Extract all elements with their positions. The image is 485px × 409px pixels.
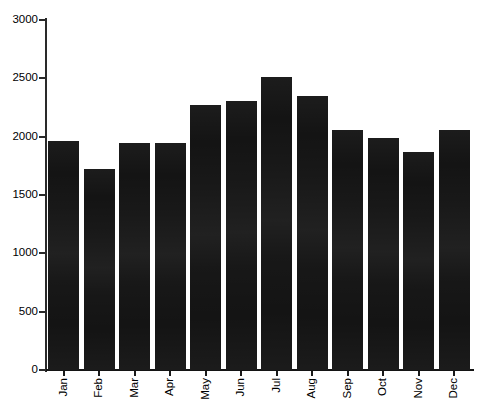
y-axis-tick-label: 1500 — [0, 189, 38, 201]
bar — [119, 143, 150, 371]
bar — [332, 130, 363, 370]
y-axis-tick-label: 2000 — [0, 131, 38, 143]
x-axis-tick-label: Oct — [378, 378, 390, 396]
x-axis-tick-label: Dec — [449, 378, 461, 398]
bar-chart: 050010001500200025003000 JanFebMarAprMay… — [0, 0, 485, 409]
x-axis-tick-label: Aug — [307, 378, 319, 398]
x-axis-tick-label: Jun — [236, 378, 248, 397]
bar — [368, 138, 399, 370]
bar — [84, 169, 115, 370]
bar — [439, 130, 470, 370]
y-axis-tick — [39, 369, 46, 371]
bar — [190, 105, 221, 370]
x-axis-tick — [240, 371, 242, 376]
y-axis-tick-label: 3000 — [0, 14, 38, 26]
y-axis-tick-label: 2500 — [0, 73, 38, 85]
x-axis-tick — [418, 371, 420, 376]
x-axis-tick — [134, 371, 136, 376]
y-axis-tick-label: 0 — [0, 364, 38, 376]
y-axis-tick-label: 500 — [0, 306, 38, 318]
y-axis-tick — [39, 19, 46, 21]
bar — [155, 143, 186, 370]
x-axis-tick-label: Jan — [58, 378, 70, 397]
x-axis-tick — [453, 371, 455, 376]
x-axis-tick — [205, 371, 207, 376]
x-axis-tick-label: May — [200, 378, 212, 400]
bar — [261, 77, 292, 370]
x-axis-tick-label: Sep — [342, 378, 354, 398]
x-axis-tick-label: Feb — [94, 378, 106, 398]
x-axis-tick-label: Nov — [413, 378, 425, 398]
x-axis-tick-label: Apr — [165, 378, 177, 396]
bar — [226, 101, 257, 371]
bar — [48, 141, 79, 370]
y-axis-tick — [39, 136, 46, 138]
x-axis-tick — [382, 371, 384, 376]
x-axis-tick — [311, 371, 313, 376]
y-axis-tick — [39, 311, 46, 313]
x-axis-tick — [63, 371, 65, 376]
y-axis-tick — [39, 194, 46, 196]
x-axis-tick — [347, 371, 349, 376]
bar — [403, 152, 434, 370]
bars-group — [46, 20, 472, 370]
y-axis-tick — [39, 252, 46, 254]
x-axis-tick — [98, 371, 100, 376]
y-axis-tick-label: 1000 — [0, 248, 38, 260]
x-axis-tick — [276, 371, 278, 376]
bar — [297, 96, 328, 370]
y-axis-tick — [39, 77, 46, 79]
x-axis-tick-label: Mar — [129, 378, 141, 398]
x-axis-tick — [169, 371, 171, 376]
x-axis-tick-label: Jul — [271, 378, 283, 393]
